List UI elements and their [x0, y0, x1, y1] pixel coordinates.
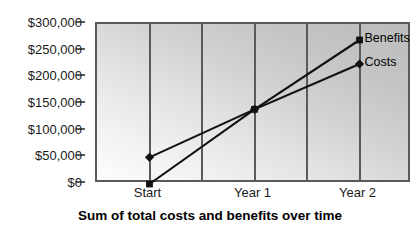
y-axis-tick-label: $200,000 [0, 69, 82, 82]
x-axis-tick-label: Start [134, 186, 161, 199]
series-label-costs: Costs [365, 56, 397, 69]
y-axis-tick-label: $100,000 [0, 122, 82, 135]
y-axis-tick-label: $50,000 [0, 149, 82, 162]
y-axis-tick-label: $250,000 [0, 42, 82, 55]
y-axis-tick-label: $300,000 [0, 16, 82, 29]
y-axis-tick-label: $0 [0, 176, 82, 189]
data-point-marker-square [356, 37, 363, 44]
x-axis-tick-label: Year 1 [234, 186, 271, 199]
chart-axis-title: Sum of total costs and benefits over tim… [0, 208, 420, 223]
chart-container: $0$50,000$100,000$150,000$200,000$250,00… [0, 0, 420, 237]
data-point-marker-diamond [145, 153, 154, 162]
y-axis-tick-label: $150,000 [0, 96, 82, 109]
data-point-marker-diamond [355, 59, 364, 68]
y-axis-labels: $0$50,000$100,000$150,000$200,000$250,00… [0, 0, 82, 237]
plot-area [95, 22, 410, 182]
series-layer [97, 24, 412, 184]
x-axis-tick-label: Year 2 [339, 186, 376, 199]
series-label-benefits: Benefits [365, 32, 410, 45]
